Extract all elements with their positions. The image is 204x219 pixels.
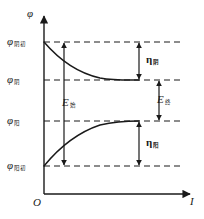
cathodic-polarization-curve [44, 42, 139, 80]
figure-canvas [0, 0, 204, 219]
overpotential-cathodic-label: η阴 [146, 54, 159, 66]
y-axis-label: φ [27, 8, 33, 19]
emf-subscript: 终 [165, 99, 171, 105]
polarization-curve-figure: φ I O φ阴初 φ阴 φ阳 φ阳初 η阴 η阳 E始 E终 [0, 0, 204, 219]
overpotential-anodic-label: η阳 [146, 137, 159, 149]
potential-symbol: φ [7, 159, 13, 171]
potential-subscript: 阴 [14, 79, 20, 85]
potential-label-anodic-initial: φ阳初 [7, 160, 26, 172]
emf-symbol: E [157, 93, 164, 105]
curves-group [44, 42, 139, 166]
overpotential-symbol: η [146, 53, 152, 65]
potential-label-cathodic-initial: φ阴初 [7, 36, 26, 48]
potential-symbol: φ [7, 114, 13, 126]
emf-symbol: E [62, 96, 69, 108]
origin-label: O [33, 197, 41, 208]
anodic-polarization-curve [44, 121, 139, 166]
x-axis-label: I [190, 196, 194, 207]
overpotential-subscript: 阳 [153, 142, 159, 148]
emf-subscript: 始 [70, 102, 76, 108]
emf-final-label: E终 [157, 94, 171, 106]
potential-label-cathodic-final: φ阴 [7, 74, 20, 86]
potential-symbol: φ [7, 73, 13, 85]
potential-subscript: 阳初 [14, 165, 26, 171]
potential-subscript: 阳 [14, 120, 20, 126]
overpotential-subscript: 阴 [153, 59, 159, 65]
potential-symbol: φ [7, 35, 13, 47]
overpotential-symbol: η [146, 136, 152, 148]
potential-label-anodic-final: φ阳 [7, 115, 20, 127]
potential-subscript: 阴初 [14, 41, 26, 47]
emf-initial-label: E始 [62, 97, 76, 109]
